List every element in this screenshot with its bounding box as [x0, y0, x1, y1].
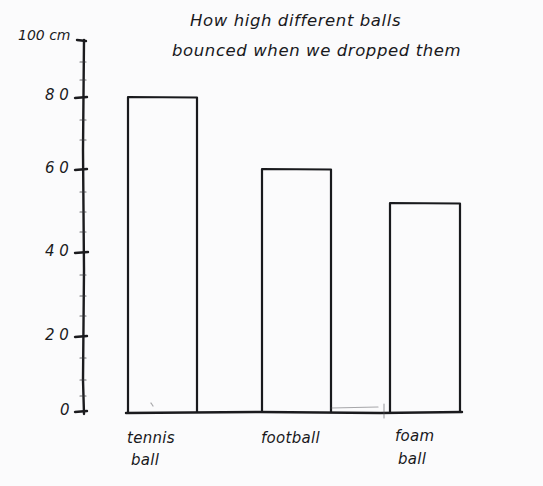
x-label-tennis-ball-line1: tennis [127, 429, 175, 447]
y-axis-top-cap [77, 40, 86, 41]
x-label-foam-ball-line2: ball [398, 450, 427, 468]
chart-title-line-1: How high different balls [190, 11, 401, 30]
y-tick-label-0: 0 [60, 401, 70, 419]
chart-canvas: How high different balls bounced when we… [0, 0, 543, 486]
y-tick-label-80: 8 0 [45, 86, 69, 104]
bar-tennis-ball [128, 97, 197, 412]
y-tick-60 [75, 169, 87, 170]
y-tick-80 [75, 97, 87, 98]
pencil-smudge [151, 403, 153, 406]
x-axis-baseline [126, 412, 462, 413]
x-label-foam-ball-line1: foam [395, 427, 434, 445]
y-tick-20 [75, 336, 87, 337]
y-tick-label-60: 6 0 [45, 159, 69, 177]
y-tick-label-20: 2 0 [45, 326, 69, 344]
pencil-smudge [331, 407, 378, 408]
y-tick-label-40: 4 0 [45, 242, 69, 260]
bar-foam-ball [390, 203, 460, 412]
y-tick-0 [75, 411, 87, 412]
y-tick-40 [75, 252, 88, 253]
handdrawn-bar-chart: How high different balls bounced when we… [0, 0, 543, 486]
x-label-tennis-ball-line2: ball [131, 451, 160, 469]
bar-football [262, 169, 331, 412]
x-label-football-line1: football [261, 429, 320, 447]
y-axis-unit-label: 100 cm [18, 27, 71, 43]
chart-title-line-2: bounced when we dropped them [172, 41, 461, 60]
